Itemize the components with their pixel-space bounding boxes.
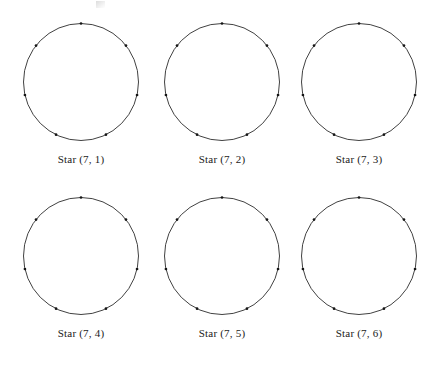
vertex-dot-star-7-6-3	[383, 307, 386, 310]
circle-outline-star-7-5	[165, 198, 280, 315]
vertex-dot-star-7-5-4	[196, 307, 199, 310]
vertex-dot-star-7-6-4	[333, 307, 336, 310]
star-label-star-7-2: Star (7, 2)	[153, 152, 291, 166]
vertex-dot-star-7-2-1	[266, 44, 269, 47]
star-polygon-grid: Star (7, 1) Star (7, 2) Star (7, 3) Star…	[0, 0, 443, 365]
star-label-star-7-3: Star (7, 3)	[290, 152, 428, 166]
vertex-dot-star-7-4-4	[55, 307, 58, 310]
vertex-dot-star-7-3-4	[333, 133, 336, 136]
star-label-star-7-6: Star (7, 6)	[290, 326, 428, 340]
circle-outline-star-7-6	[302, 198, 417, 315]
circle-outline-star-7-2	[165, 24, 280, 141]
vertex-dot-star-7-3-1	[403, 44, 406, 47]
vertex-dot-star-7-1-1	[125, 44, 128, 47]
circle-outline-star-7-1	[24, 24, 139, 141]
vertex-dot-star-7-1-2	[136, 94, 139, 97]
star-cell-star-7-6: Star (7, 6)	[290, 190, 428, 350]
vertex-dot-star-7-5-1	[266, 218, 269, 221]
star-label-star-7-4: Star (7, 4)	[12, 326, 150, 340]
star-cell-star-7-1: Star (7, 1)	[12, 16, 150, 176]
vertex-dot-star-7-2-2	[277, 94, 280, 97]
vertex-dot-star-7-1-4	[55, 133, 58, 136]
vertex-dot-star-7-2-6	[176, 44, 179, 47]
vertex-dot-star-7-1-6	[35, 44, 38, 47]
star-cell-star-7-5: Star (7, 5)	[153, 190, 291, 350]
star-cell-star-7-2: Star (7, 2)	[153, 16, 291, 176]
circle-svg-star-7-2	[153, 16, 291, 148]
vertex-dot-star-7-5-5	[165, 268, 168, 271]
vertex-dot-star-7-2-0	[221, 22, 224, 25]
vertex-dot-star-7-1-0	[80, 22, 83, 25]
circle-outline-star-7-4	[24, 198, 139, 315]
vertex-dot-star-7-3-3	[383, 133, 386, 136]
circle-diagram-star-7-1	[12, 16, 150, 148]
star-label-star-7-1: Star (7, 1)	[12, 152, 150, 166]
circle-diagram-star-7-4	[12, 190, 150, 322]
vertex-dot-star-7-5-6	[176, 218, 179, 221]
circle-svg-star-7-3	[290, 16, 428, 148]
vertex-dot-star-7-5-3	[246, 307, 249, 310]
vertex-dot-star-7-6-5	[302, 268, 305, 271]
vertex-dot-star-7-4-0	[80, 196, 83, 199]
vertex-dot-star-7-4-3	[105, 307, 108, 310]
vertex-dot-star-7-4-2	[136, 268, 139, 271]
vertex-dot-star-7-2-3	[246, 133, 249, 136]
star-cell-star-7-3: Star (7, 3)	[290, 16, 428, 176]
vertex-dot-star-7-4-1	[125, 218, 128, 221]
vertex-dot-star-7-6-2	[414, 268, 417, 271]
vertex-dot-star-7-6-6	[313, 218, 316, 221]
circle-diagram-star-7-6	[290, 190, 428, 322]
vertex-dot-star-7-5-2	[277, 268, 280, 271]
vertex-dot-star-7-3-0	[358, 22, 361, 25]
vertex-dot-star-7-3-6	[313, 44, 316, 47]
vertex-dot-star-7-4-5	[24, 268, 27, 271]
circle-diagram-star-7-2	[153, 16, 291, 148]
star-cell-star-7-4: Star (7, 4)	[12, 190, 150, 350]
vertex-dot-star-7-5-0	[221, 196, 224, 199]
vertex-dot-star-7-3-5	[302, 94, 305, 97]
vertex-dot-star-7-2-4	[196, 133, 199, 136]
vertex-dot-star-7-4-6	[35, 218, 38, 221]
circle-svg-star-7-5	[153, 190, 291, 322]
circle-outline-star-7-3	[302, 24, 417, 141]
circle-svg-star-7-6	[290, 190, 428, 322]
vertex-dot-star-7-6-0	[358, 196, 361, 199]
star-label-star-7-5: Star (7, 5)	[153, 326, 291, 340]
vertex-dot-star-7-1-5	[24, 94, 27, 97]
vertex-dot-star-7-6-1	[403, 218, 406, 221]
figure-root: Star (7, 1) Star (7, 2) Star (7, 3) Star…	[0, 0, 443, 365]
vertex-dot-star-7-1-3	[105, 133, 108, 136]
circle-svg-star-7-1	[12, 16, 150, 148]
circle-svg-star-7-4	[12, 190, 150, 322]
circle-diagram-star-7-5	[153, 190, 291, 322]
vertex-dot-star-7-3-2	[414, 94, 417, 97]
vertex-dot-star-7-2-5	[165, 94, 168, 97]
circle-diagram-star-7-3	[290, 16, 428, 148]
